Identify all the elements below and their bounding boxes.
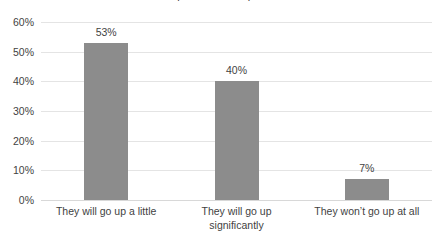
- x-axis-label-line: They will go up: [201, 205, 271, 219]
- bar-value-label: 7%: [359, 162, 374, 174]
- bar[interactable]: [84, 43, 128, 200]
- y-axis-tick-label: 30%: [13, 105, 34, 117]
- bar-chart: Expectations for prices 60%50%40%30%20%1…: [0, 0, 442, 250]
- x-axis-label-line: They won’t go up at all: [314, 205, 419, 219]
- plot-area: 53%40%7%: [41, 22, 432, 200]
- gridline: [41, 200, 432, 201]
- bar-value-label: 53%: [96, 26, 117, 38]
- y-axis-tick-label: 40%: [13, 75, 34, 87]
- y-axis-tick-label: 50%: [13, 46, 34, 58]
- y-axis-tick-label: 20%: [13, 135, 34, 147]
- x-axis-category-label: They will go upsignificantly: [201, 205, 271, 232]
- bar-value-label: 40%: [226, 64, 247, 76]
- chart-title: Expectations for prices: [0, 0, 442, 1]
- y-axis-tick-label: 60%: [13, 16, 34, 28]
- x-axis: They will go up a littleThey will go ups…: [41, 205, 432, 250]
- x-axis-category-label: They won’t go up at all: [314, 205, 419, 219]
- bar[interactable]: [345, 179, 389, 200]
- x-axis-category-label: They will go up a little: [56, 205, 156, 219]
- y-axis-tick-label: 0%: [19, 194, 34, 206]
- gridline: [41, 22, 432, 23]
- bar[interactable]: [215, 81, 259, 200]
- y-axis-tick-label: 10%: [13, 164, 34, 176]
- x-axis-label-line: significantly: [201, 219, 271, 233]
- y-axis: 60%50%40%30%20%10%0%: [0, 0, 41, 250]
- x-axis-label-line: They will go up a little: [56, 205, 156, 219]
